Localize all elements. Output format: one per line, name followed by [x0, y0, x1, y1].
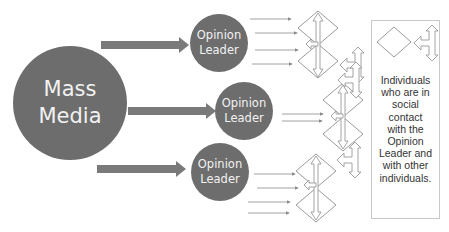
legend-icons: [372, 21, 441, 71]
opinion-leader-1-label-line1: Opinion: [197, 28, 241, 42]
legend-description: Individuals who are in social contact wi…: [372, 74, 439, 184]
thin-arrows-middle: [282, 114, 323, 121]
individuals-cluster-bottom: [296, 142, 361, 222]
opinion-leader-3-label-line2: Leader: [200, 172, 240, 186]
individuals-cluster-middle: [323, 62, 363, 151]
opinion-leader-node-1: Opinion Leader: [190, 14, 248, 72]
opinion-leader-3-label-line1: Opinion: [198, 157, 242, 171]
opinion-leader-1-label-line2: Leader: [199, 43, 239, 57]
diamond-icon: [377, 27, 411, 57]
opinion-leader-node-3: Opinion Leader: [191, 143, 249, 201]
opinion-leader-node-2: Opinion Leader: [215, 82, 273, 140]
opinion-leader-2-label-line2: Leader: [224, 111, 264, 125]
thin-arrows-top: [250, 19, 298, 64]
mass-media-label-line1: Mass: [44, 77, 97, 101]
thin-arrows-bottom: [248, 174, 298, 213]
legend-box: Individuals who are in social contact wi…: [371, 20, 440, 219]
mass-media-node: Mass Media: [13, 46, 127, 160]
big-arrow-bottom: [97, 161, 186, 177]
big-arrow-top: [101, 37, 189, 53]
big-arrow-middle: [128, 103, 216, 119]
t-double-arrow-icon: [414, 25, 438, 61]
mass-media-label-line2: Media: [38, 104, 101, 128]
opinion-leader-2-label-line1: Opinion: [222, 96, 266, 110]
